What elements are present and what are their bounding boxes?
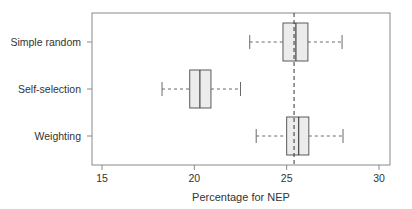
x-tick-label: 25 [281,172,293,184]
y-axis: Simple randomSelf-selectionWeighting [10,36,92,142]
box-self-selection [162,70,240,108]
x-axis-title: Percentage for NEP [192,191,290,203]
x-tick-label: 20 [188,172,200,184]
boxplot-chart: 15202530 Simple randomSelf-selectionWeig… [0,0,412,209]
iqr-box [287,117,309,155]
box-series [162,23,343,155]
y-category-label: Self-selection [18,83,81,95]
box-weighting [256,117,343,155]
y-category-label: Simple random [10,36,81,48]
x-axis: 15202530 [96,165,385,184]
x-tick-label: 15 [96,172,108,184]
y-category-label: Weighting [34,130,81,142]
box-simple-random [250,23,342,61]
x-tick-label: 30 [373,172,385,184]
